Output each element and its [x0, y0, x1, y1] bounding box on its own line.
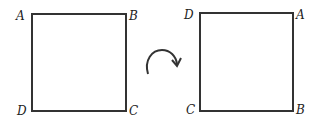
left-label-top-right: B	[128, 9, 138, 23]
left-label-bottom-right: C	[129, 104, 138, 118]
right-label-bottom-left: C	[186, 103, 195, 117]
left-label-bottom-left: D	[16, 104, 27, 118]
right-square	[200, 13, 293, 111]
rotation-diagram: A B C D D A B C	[0, 0, 320, 125]
left-square	[32, 14, 126, 111]
left-label-top-left: A	[15, 9, 25, 23]
clockwise-rotation-arrow-icon	[147, 50, 181, 74]
right-label-top-right: A	[295, 8, 305, 22]
right-label-top-left: D	[183, 8, 194, 22]
right-label-bottom-right: B	[295, 103, 305, 117]
